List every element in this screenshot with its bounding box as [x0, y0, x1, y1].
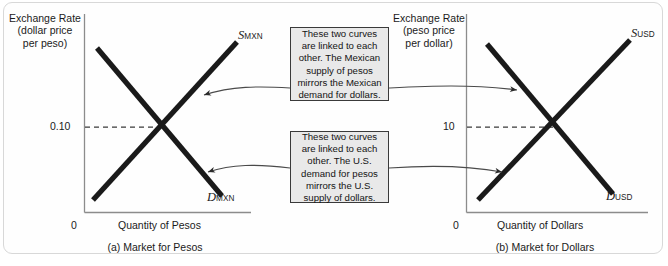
panel-a-demand-label: DMXN	[207, 190, 235, 205]
panel-b-y-axis-title: Exchange Rate (peso price per dollar)	[392, 12, 466, 49]
panel-a-caption: (a) Market for Pesos	[65, 241, 245, 253]
panel-a-origin-label: 0	[71, 219, 77, 231]
connector-upper-left	[204, 87, 290, 95]
panel-b-demand-subscript: USD	[615, 193, 633, 202]
panel-a-equilibrium-tick-label: 0.10	[50, 120, 70, 132]
exchange-rate-figure: Exchange Rate (dollar price per peso) 0.…	[0, 0, 668, 266]
callout-demand-link: These two curves are linked to each othe…	[290, 131, 389, 203]
panel-a-demand-subscript: MXN	[216, 194, 235, 203]
connector-lower-right	[389, 166, 502, 172]
panel-a-x-axis-title: Quantity of Pesos	[118, 219, 201, 231]
callout-supply-link: These two curves are linked to each othe…	[290, 27, 389, 101]
panel-b-equilibrium-tick-label: 10	[443, 120, 455, 132]
connector-upper-right	[389, 86, 517, 90]
panel-a-demand-letter: D	[207, 190, 216, 204]
panel-b-supply-subscript: USD	[637, 30, 655, 39]
panel-b-origin-label: 0	[453, 219, 459, 231]
panel-a-y-axis-title: Exchange Rate (dollar price per peso)	[8, 12, 82, 49]
panel-a-supply-label: SMXN	[238, 28, 263, 43]
connector-lower-left	[208, 165, 290, 172]
panel-a-supply-subscript: MXN	[244, 32, 263, 41]
panel-b-supply-label: SUSD	[631, 26, 655, 41]
panel-b-x-axis-title: Quantity of Dollars	[497, 219, 583, 231]
panel-b-demand-letter: D	[606, 189, 615, 203]
panel-b-caption: (b) Market for Dollars	[450, 241, 640, 253]
panel-b-demand-label: DUSD	[606, 189, 633, 204]
